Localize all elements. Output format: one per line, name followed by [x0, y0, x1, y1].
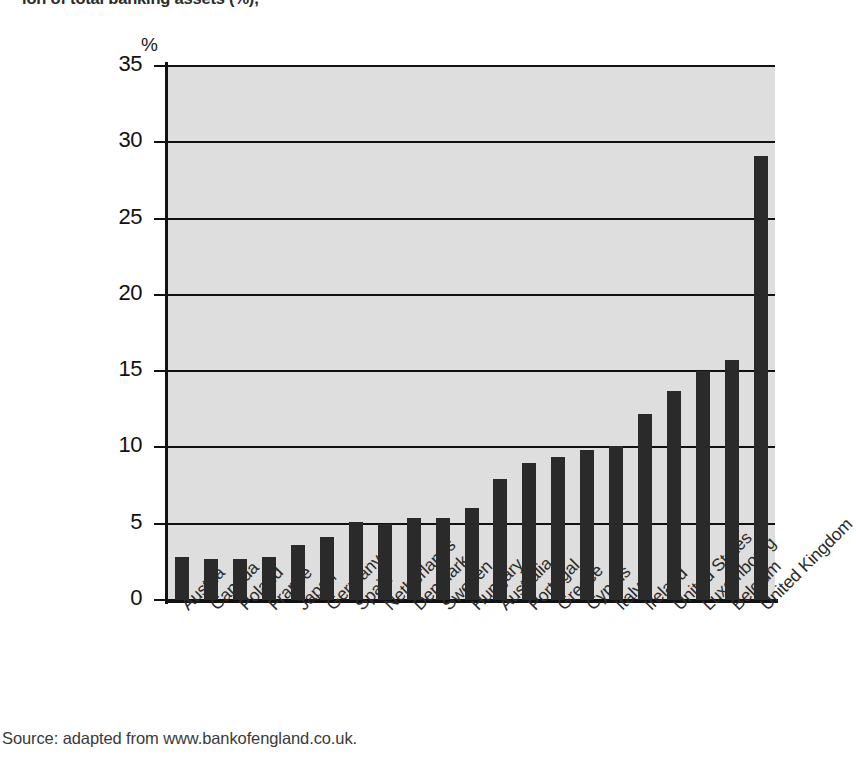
x-axis-labels: AustriaCanadaPolandFranceJapanGermanySpa…: [0, 600, 815, 715]
source-note: Source: adapted from www.bankofengland.c…: [2, 729, 357, 748]
bar-series: [0, 0, 815, 600]
bar-ireland: [638, 414, 652, 600]
